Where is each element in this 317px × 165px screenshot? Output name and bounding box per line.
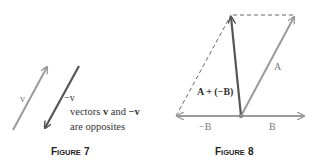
parallelogram-dashed-left	[176, 15, 231, 116]
note-line-1: vectors v and −v	[70, 106, 141, 117]
figure-8-caption: FIGURE8	[215, 146, 254, 157]
vector-A-minus-B-arrow	[231, 17, 241, 116]
label-B: B	[269, 121, 276, 132]
vector-A-arrow	[241, 17, 294, 116]
figure-8: A A + (−B) −B B FIGURE8	[176, 15, 304, 157]
figures-canvas: v −v vectors v and −v are opposites FIGU…	[0, 0, 317, 165]
origin-point	[239, 114, 243, 118]
label-v: v	[20, 93, 25, 104]
label-A: A	[274, 61, 282, 72]
note-line-2: are opposites	[70, 121, 125, 132]
figure-7: v −v vectors v and −v are opposites FIGU…	[13, 66, 141, 157]
label-neg-v: −v	[64, 92, 75, 103]
figure-7-caption: FIGURE7	[51, 146, 90, 157]
label-A-plus-neg-B: A + (−B)	[197, 86, 233, 98]
vector-v-arrow	[13, 67, 47, 130]
label-neg-B: −B	[199, 121, 212, 132]
